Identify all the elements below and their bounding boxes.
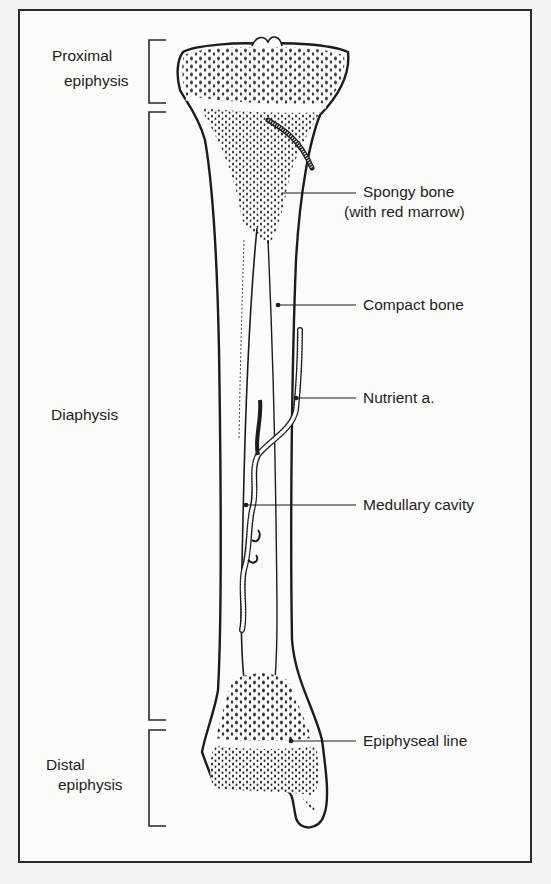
proximal-spongy-region bbox=[182, 47, 344, 104]
label-epiphyseal-line: Epiphyseal line bbox=[363, 732, 467, 750]
long-bone-illustration bbox=[0, 0, 551, 884]
label-spongy-bone-note: (with red marrow) bbox=[344, 203, 465, 221]
label-compact-bone: Compact bone bbox=[363, 296, 464, 314]
label-proximal-epiphysis-line1: Proximal bbox=[52, 47, 112, 65]
bracket-proximal-epiphysis bbox=[149, 40, 166, 103]
label-diaphysis: Diaphysis bbox=[51, 406, 118, 424]
label-distal-epiphysis-line2: epiphysis bbox=[58, 776, 123, 794]
label-nutrient-artery: Nutrient a. bbox=[363, 389, 435, 407]
bracket-diaphysis bbox=[149, 112, 166, 720]
label-medullary-cavity: Medullary cavity bbox=[363, 496, 474, 514]
label-spongy-bone: Spongy bone bbox=[363, 183, 454, 201]
label-proximal-epiphysis-line2: epiphysis bbox=[64, 72, 129, 90]
bracket-distal-epiphysis bbox=[149, 730, 166, 826]
label-distal-epiphysis-line1: Distal bbox=[46, 756, 85, 774]
